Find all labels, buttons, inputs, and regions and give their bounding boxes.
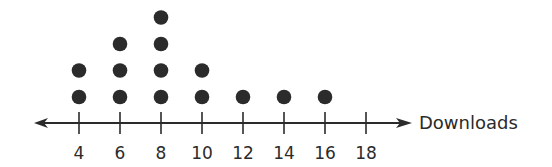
dot-plot: 4681012141618 Downloads [0, 0, 552, 167]
data-dot [113, 63, 128, 78]
data-dot [277, 90, 292, 105]
tick-label: 12 [232, 143, 254, 163]
tick-label: 8 [156, 143, 167, 163]
data-dot [113, 37, 128, 52]
tick-label: 4 [74, 143, 85, 163]
data-dot [195, 90, 210, 105]
tick-label: 10 [191, 143, 213, 163]
number-line: 4681012141618 [34, 112, 412, 163]
data-dot [318, 90, 333, 105]
data-dot [195, 63, 210, 78]
data-dot [113, 90, 128, 105]
data-dot [72, 90, 87, 105]
data-dot [72, 63, 87, 78]
data-dots [72, 10, 333, 104]
tick-label: 6 [115, 143, 126, 163]
x-axis-label: Downloads [419, 112, 518, 133]
data-dot [154, 63, 169, 78]
tick-label: 14 [273, 143, 295, 163]
data-dot [236, 90, 251, 105]
data-dot [154, 90, 169, 105]
data-dot [154, 37, 169, 52]
tick-label: 18 [355, 143, 377, 163]
data-dot [154, 10, 169, 25]
tick-label: 16 [314, 143, 336, 163]
